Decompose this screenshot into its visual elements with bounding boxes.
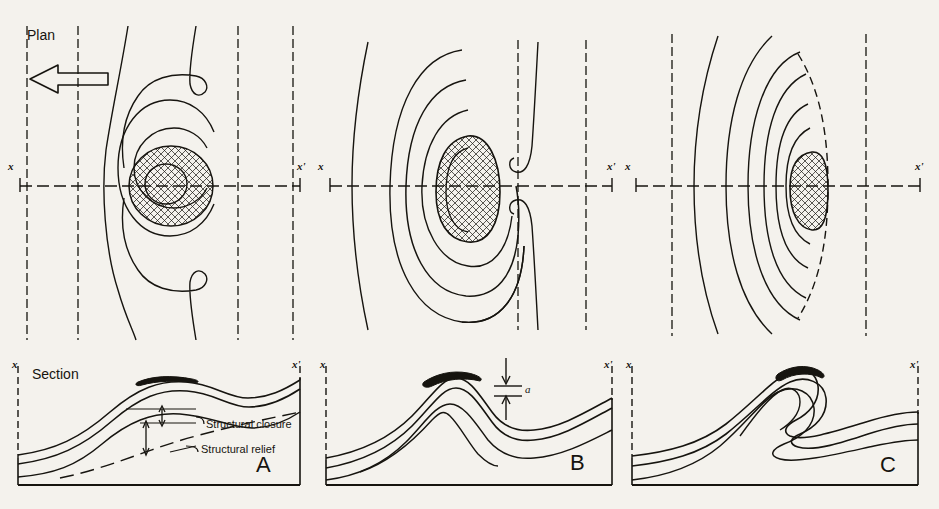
- section-c-axis-label-left: x: [626, 358, 632, 370]
- plan-a-axis-label-right: x': [297, 160, 306, 172]
- figure-background: [0, 0, 939, 509]
- section-view-label: Section: [32, 366, 79, 382]
- section-c-axis-label-right: x': [910, 358, 919, 370]
- panel-letter-a: A: [256, 452, 271, 478]
- plan-b-axis-label-left: x: [318, 160, 324, 172]
- section-a-axis-label-left: x: [12, 358, 18, 370]
- structural-closure-label: Structural closure: [206, 418, 292, 430]
- plan-c-closure-area: [790, 152, 828, 230]
- panel-letter-c: C: [880, 452, 896, 478]
- figure-canvas: [0, 0, 939, 509]
- plan-b-axis-label-right: x': [607, 160, 616, 172]
- plan-c-axis-label-left: x: [625, 160, 631, 172]
- panel-letter-b: B: [570, 450, 585, 476]
- section-a-axis-label-right: x': [292, 358, 301, 370]
- plan-c-axis-label-right: x': [915, 160, 924, 172]
- section-b-axis-label-right: x': [604, 358, 613, 370]
- plan-view-label: Plan: [27, 27, 55, 43]
- thickness-a-label: a: [525, 383, 531, 395]
- section-b-axis-label-left: x: [320, 358, 326, 370]
- plan-a-axis-label-left: x: [8, 160, 14, 172]
- figure-root: Plan Section x x' x x' x x' x x' x x' x …: [0, 0, 939, 509]
